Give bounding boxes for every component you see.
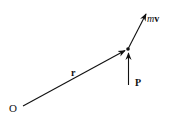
force-label: P xyxy=(135,77,141,88)
origin-label: O xyxy=(9,102,17,114)
particle-dot xyxy=(126,47,130,51)
momentum-diagram: O r P mv xyxy=(0,0,169,119)
momentum-label-v: v xyxy=(154,13,159,24)
momentum-label-m: m xyxy=(147,13,154,24)
position-vector-label: r xyxy=(71,67,76,78)
position-vector-r xyxy=(23,51,125,107)
momentum-label: mv xyxy=(147,13,159,24)
momentum-vector-mv xyxy=(128,14,146,49)
